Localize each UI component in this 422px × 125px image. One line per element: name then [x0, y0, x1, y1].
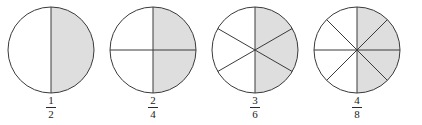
fraction-two-fourths: 2 4	[148, 95, 158, 120]
fraction-label-two-fourths: 2 4	[102, 95, 204, 121]
fraction-denominator: 2	[46, 109, 56, 121]
fraction-numerator: 3	[250, 95, 260, 107]
fraction-unit-half: 1 2	[0, 0, 102, 125]
fraction-circle-half	[0, 0, 102, 96]
shaded-sectors-half	[51, 7, 94, 93]
fraction-numerator: 2	[148, 95, 158, 107]
fraction-unit-three-sixths: 3 6	[204, 0, 306, 125]
fraction-label-three-sixths: 3 6	[204, 95, 306, 121]
fraction-label-four-eighths: 4 8	[306, 95, 408, 121]
fraction-denominator: 4	[148, 109, 158, 121]
fraction-label-half: 1 2	[0, 95, 102, 121]
fraction-numerator: 1	[46, 95, 56, 107]
sector-dividers-four-eighths	[314, 7, 400, 93]
fraction-three-sixths: 3 6	[250, 95, 260, 120]
equivalent-fractions-figure: 1 2 2 4	[0, 0, 422, 125]
fraction-denominator: 8	[352, 109, 362, 121]
fraction-numerator: 4	[352, 95, 362, 107]
fraction-circle-four-eighths	[306, 0, 408, 96]
fraction-half: 1 2	[46, 95, 56, 120]
fraction-circle-two-fourths	[102, 0, 204, 96]
shaded-sectors-three-sixths	[255, 7, 298, 93]
fraction-unit-four-eighths: 4 8	[306, 0, 408, 125]
fraction-unit-two-fourths: 2 4	[102, 0, 204, 125]
fraction-four-eighths: 4 8	[352, 95, 362, 120]
fraction-circle-three-sixths	[204, 0, 306, 96]
fraction-denominator: 6	[250, 109, 260, 121]
